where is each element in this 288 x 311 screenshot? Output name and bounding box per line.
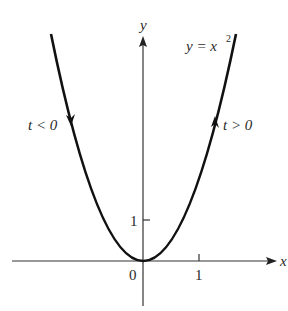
t-positive-label: t > 0 [223, 117, 253, 133]
y-axis-label: y [138, 17, 147, 33]
equation-exponent: 2 [226, 33, 231, 44]
x-tick-1-label: 1 [195, 267, 203, 283]
y-tick-1-label: 1 [130, 213, 138, 229]
x-axis-label: x [279, 253, 287, 269]
equation-label: y = x [184, 38, 217, 54]
t-negative-label: t < 0 [28, 117, 58, 133]
parabola-diagram: y x y = x 2 t < 0 t > 0 0 1 1 [0, 0, 288, 311]
origin-label: 0 [129, 267, 137, 283]
